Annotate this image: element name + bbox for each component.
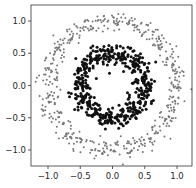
data-point (136, 29, 138, 31)
data-point (99, 119, 102, 122)
data-point (117, 52, 120, 55)
data-point (126, 148, 128, 150)
data-point (132, 65, 135, 68)
data-point (138, 145, 140, 147)
data-point (113, 29, 115, 31)
data-point (119, 122, 122, 125)
data-point (105, 112, 108, 115)
data-point (78, 81, 81, 84)
data-point (73, 23, 75, 25)
data-point (48, 102, 50, 104)
data-point (139, 69, 142, 72)
data-point (50, 69, 52, 71)
data-point (154, 133, 156, 135)
data-point (73, 143, 75, 145)
data-point (141, 108, 144, 111)
data-point (151, 127, 153, 129)
data-point (122, 47, 125, 50)
data-point (138, 57, 141, 60)
data-point (45, 57, 47, 59)
data-point (102, 153, 104, 155)
data-point (103, 141, 105, 143)
data-point (66, 42, 68, 44)
data-point (176, 71, 178, 73)
data-point (103, 25, 105, 27)
data-point (150, 22, 152, 24)
data-point (52, 35, 54, 37)
data-point (132, 102, 135, 105)
data-point (154, 125, 156, 127)
data-point (133, 147, 135, 149)
data-point (78, 42, 80, 44)
data-point (183, 100, 185, 102)
data-point (153, 31, 155, 33)
data-point (120, 135, 122, 137)
data-point (159, 49, 161, 51)
data-point (82, 101, 85, 104)
data-point (106, 145, 108, 147)
data-point (137, 54, 140, 57)
data-point (177, 56, 179, 58)
data-point (134, 142, 136, 144)
data-point (168, 125, 170, 127)
data-point (63, 42, 65, 44)
data-point (148, 138, 150, 140)
data-point (83, 29, 85, 31)
data-point (52, 57, 54, 59)
data-point (90, 149, 92, 151)
data-point (174, 79, 176, 81)
data-point (163, 37, 165, 39)
data-point (78, 131, 80, 133)
data-point (94, 110, 97, 113)
data-point (135, 64, 138, 67)
data-point (143, 139, 145, 141)
data-point (50, 71, 52, 73)
data-point (132, 137, 134, 139)
data-point (107, 60, 110, 63)
data-point (149, 141, 151, 143)
data-point (100, 21, 102, 23)
data-point (53, 92, 55, 94)
data-point (87, 27, 89, 29)
data-point (62, 123, 64, 125)
data-point (56, 110, 58, 112)
data-point (102, 20, 104, 22)
data-point (130, 17, 132, 19)
data-point (137, 149, 139, 151)
data-point (89, 46, 92, 49)
data-point (109, 118, 112, 121)
data-point (67, 91, 70, 94)
data-point (143, 62, 146, 65)
data-point (144, 143, 146, 145)
data-point (170, 56, 172, 58)
data-point (49, 52, 51, 54)
data-point (76, 69, 79, 72)
data-point (151, 38, 153, 40)
data-point (56, 86, 58, 88)
data-point (144, 75, 147, 78)
data-point (83, 146, 85, 148)
data-point (56, 126, 58, 128)
data-point (164, 120, 166, 122)
data-point (122, 109, 125, 112)
data-point (136, 141, 138, 143)
data-point (153, 80, 156, 83)
data-point (116, 18, 118, 20)
data-point (49, 113, 51, 115)
data-point (44, 114, 46, 116)
data-point (150, 78, 153, 81)
data-point (103, 54, 106, 57)
data-point (110, 144, 112, 146)
data-point (126, 65, 129, 68)
data-point (140, 140, 142, 142)
data-point (154, 120, 156, 122)
data-point (142, 97, 145, 100)
data-point (155, 130, 157, 132)
data-point (104, 151, 106, 153)
data-point (57, 41, 59, 43)
data-point (181, 70, 183, 72)
data-point (92, 49, 95, 52)
data-point (169, 95, 171, 97)
data-point (173, 111, 175, 113)
data-point (174, 60, 176, 62)
